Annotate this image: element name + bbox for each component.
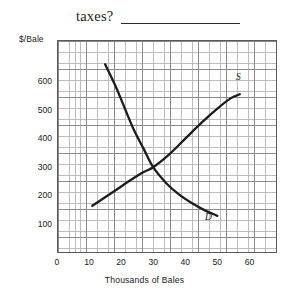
y-tick-label: 300 [14,163,52,172]
x-tick-label: 30 [138,258,168,267]
supply-curve-label: S [236,72,241,82]
y-tick-label: 600 [14,77,52,86]
y-axis-tick-labels: 100200300400500600 [8,0,52,296]
x-axis-title: Thousands of Bales [0,275,289,285]
answer-blank-line[interactable] [121,23,240,24]
y-tick-label: 200 [14,191,52,200]
y-tick-label: 400 [14,134,52,143]
supply-curve [92,94,240,206]
demand-curve-label: D [205,212,212,222]
x-tick-label: 50 [202,258,232,267]
curves-layer [57,40,277,253]
x-tick-label: 0 [42,258,72,267]
question-text: taxes? [76,8,113,25]
x-tick-label: 40 [170,258,200,267]
x-tick-label: 10 [74,258,104,267]
y-tick-label: 100 [14,220,52,229]
demand-curve [105,64,217,216]
y-tick-label: 500 [14,106,52,115]
supply-demand-chart [57,40,277,253]
x-tick-label: 20 [106,258,136,267]
x-axis-tick-labels: 0102030405060 [0,258,289,272]
x-tick-label: 60 [234,258,264,267]
